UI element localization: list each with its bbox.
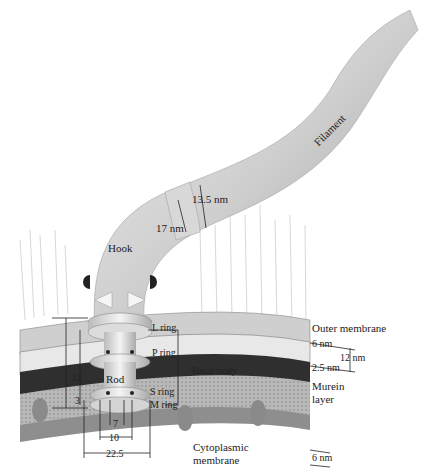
label-outer-membrane-thickness: 6 nm [312, 338, 332, 350]
dim-inner-width: 10 [109, 432, 119, 444]
label-cytoplasmic-line2: membrane [193, 454, 239, 466]
dim-left-12: 12 [72, 372, 82, 384]
label-cytoplasmic-thickness: 6 nm [312, 452, 332, 464]
label-basal-body: Basal body [192, 365, 237, 377]
label-hook: Hook [108, 242, 132, 254]
label-murein-line2: layer [312, 393, 334, 405]
label-rod: Rod [106, 373, 124, 385]
label-p-ring: P ring [152, 347, 176, 359]
label-outer-membrane: Outer membrane [312, 322, 386, 334]
label-murein-line1: Murein [312, 380, 344, 392]
label-hook-diameter: 17 nm [156, 222, 184, 234]
dim-rod-width: 7 [113, 418, 118, 430]
label-murein-thickness: 2.5 nm [312, 362, 340, 374]
label-m-ring: M ring [150, 399, 178, 411]
label-cytoplasmic-line1: Cytoplasmic [193, 441, 249, 453]
flagellum-illustration [0, 0, 426, 476]
label-l-ring: L ring [152, 322, 176, 334]
label-filament-diameter: 13.5 nm [192, 193, 228, 205]
label-periplasm-span: 12 nm [340, 352, 365, 364]
dim-ring-width: 22.5 [106, 448, 124, 460]
filament [94, 10, 418, 330]
label-s-ring: S ring [150, 386, 174, 398]
dim-left-3: 3 [75, 395, 80, 407]
